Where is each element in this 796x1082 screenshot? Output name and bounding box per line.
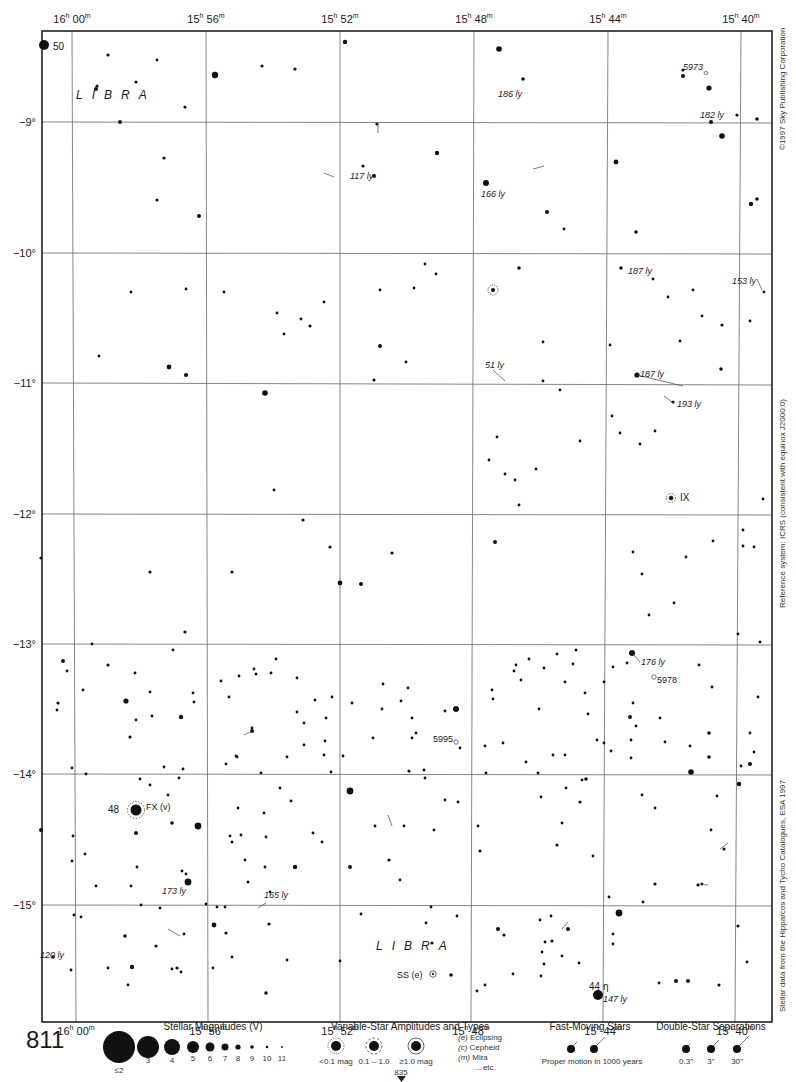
amplitude-label: ≥1.0 mag [399,1057,432,1066]
coordinate-grid [42,31,772,1022]
dec-label: −12° [13,508,36,520]
star-label: 48 [108,804,119,815]
proper-motion-caption: Proper motion in 1000 years [542,1057,643,1066]
magnitude-label: ≤2 [115,1066,124,1075]
double-star-legend-title: Double-Star Separations [656,1021,766,1032]
amplitude-label: 0.1 – 1.0 [358,1057,389,1066]
distance-label: 153 ly [732,276,756,286]
dec-label: −13° [13,638,36,650]
data-source-note: Stellar data from the Hipparcos and Tych… [778,780,787,1012]
star-label: 50 [53,41,64,52]
constellation-label: LIBRA [376,939,456,953]
distance-label: 187 ly [640,369,664,379]
star-label: 44 η [589,981,608,992]
galaxy-label: 5978 [657,675,677,685]
distance-label: 193 ly [677,399,701,409]
variable-types-list: (e) Eclipsing (c) Cepheid (m) Mira ... e… [458,1033,502,1073]
variable-star-label: FX (v) [146,802,171,812]
variables-legend-title: Variable-Star Amplitudes and Types [331,1021,489,1032]
magnitude-label: 4 [170,1056,174,1065]
ra-label: 15h 40m [722,12,759,25]
distance-label: 187 ly [628,266,652,276]
distance-label: 173 ly [162,886,186,896]
galaxy-label: 5973 [683,62,703,72]
distance-label: 166 ly [481,189,505,199]
distance-label: 165 ly [264,890,288,900]
dec-label: −10° [13,247,36,259]
ra-label: 16h 00m [53,12,90,25]
arrow-down-icon [397,1076,406,1082]
double-star-symbols [676,1033,756,1055]
variable-star-label: IX [680,492,689,503]
constellation-label: LIBRA [76,88,156,102]
dec-label: −15° [13,899,36,911]
copyright-note: ©1997 Sky Publishing Corporation [778,28,787,150]
distance-label: 186 ly [498,89,522,99]
magnitude-label: 8 [236,1054,240,1063]
map-border [42,31,772,1022]
reference-system-note: Reference system: ICRS (consistent with … [778,399,787,608]
variable-star-label: SS (e) [397,970,423,980]
distance-label: 147 ly [603,994,627,1004]
distance-label: 182 ly [700,110,724,120]
proper-motion-vectors [168,123,762,936]
galaxy-markers [454,72,708,745]
distance-label: 176 ly [641,657,665,667]
magnitude-scale [100,1030,300,1070]
magnitude-label: 7 [223,1054,227,1063]
dec-label: −9° [19,116,36,128]
distance-label: 51 ly [485,360,504,370]
stars [39,40,765,1000]
magnitude-label: 6 [208,1054,212,1063]
magnitude-label: 9 [250,1054,254,1063]
distance-label: 120 ly [40,950,64,960]
separation-label: 3" [707,1057,714,1066]
ra-label: 15h 48m [455,12,492,25]
ra-label: 15h 52m [321,12,358,25]
variable-amplitude-symbols [320,1034,440,1058]
ra-label: 15h 56m [187,12,224,25]
galaxy-label: 5995 [433,734,453,744]
dec-label: −14° [13,768,36,780]
amplitude-label: <0.1 mag [319,1057,353,1066]
star-chart [0,0,796,1082]
ra-label: 15h 44m [589,12,626,25]
variable-star-rings [128,285,676,977]
separation-label: 0.3" [679,1057,693,1066]
page-number: 811 [26,1026,64,1054]
separation-label: 30" [731,1057,743,1066]
magnitude-label: 11 [278,1054,286,1063]
magnitude-label: 3 [146,1056,150,1065]
distance-label: 117 ly [350,171,373,181]
dec-label: −11° [14,377,36,389]
magnitude-label: 10 [263,1054,272,1063]
magnitude-label: 5 [191,1054,195,1063]
fast-moving-legend-title: Fast-Moving Stars [549,1021,630,1032]
fast-moving-symbols [560,1033,620,1055]
